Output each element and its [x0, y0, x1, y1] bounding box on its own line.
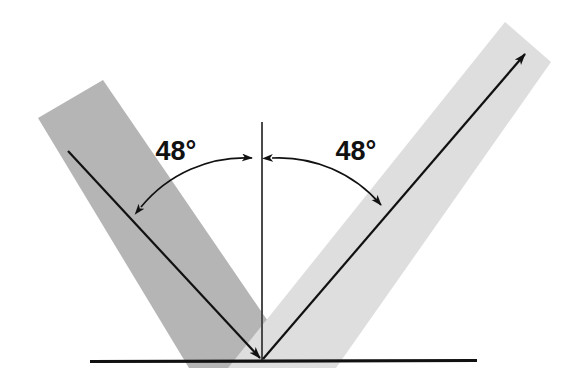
angle-of-incidence-label: 48° [156, 136, 197, 166]
diagram-canvas: 48° 48° [0, 0, 579, 389]
reflected-beam [228, 22, 551, 368]
incident-beam [38, 80, 300, 368]
angle-of-reflection-label: 48° [336, 136, 377, 166]
reflection-diagram: 48° 48° [0, 0, 579, 389]
reflected-ray [263, 54, 525, 359]
surface-line [90, 361, 477, 362]
